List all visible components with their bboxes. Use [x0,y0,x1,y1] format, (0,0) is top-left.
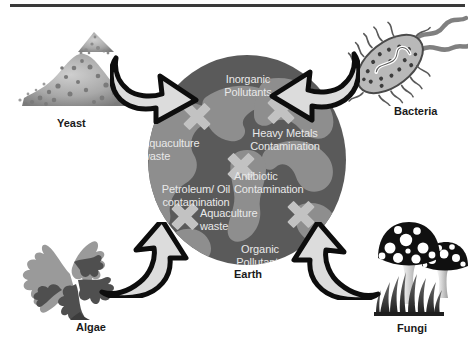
curved-block-arrow-down-right-icon [110,52,202,124]
pollutant-label-aquaculture-waste-lower: Aquaculture waste [200,207,288,232]
pollutant-label-petroleum-oil: Petroleum/ Oil contamination [148,183,246,208]
organism-label-algae: Algae [76,321,106,333]
figure-canvas: Inorganic Pollutants Heavy Metals Contam… [0,0,473,343]
organism-label-yeast: Yeast [57,117,86,129]
curved-block-arrow-up-left-icon [282,222,382,300]
pollutant-label-antibiotic: Antibiotic Contamination [234,170,334,195]
curved-block-arrow-down-left-icon [262,48,360,124]
organism-label-fungi: Fungi [397,322,427,334]
pollutant-label-heavy-metals: Heavy Metals Contamination [231,127,339,152]
spotted-mushrooms-grass-icon [368,222,468,320]
earth-caption-label: Earth [208,268,288,280]
curved-block-arrow-up-right-icon [98,222,198,298]
organism-label-bacteria: Bacteria [394,105,437,117]
top-rule-divider [10,4,465,7]
pollutant-label-aquaculture-waste-upper: Aquaculture waste [148,137,230,162]
